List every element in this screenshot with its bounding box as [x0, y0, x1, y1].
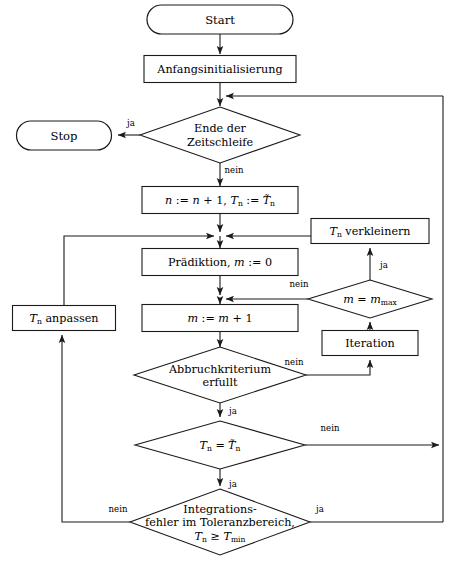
node-tn-eq-tn[interactable]: Tn = ˜Tn — [135, 421, 305, 469]
node-integration-error-label-line1: Integrations- — [183, 503, 257, 516]
node-start-label: Start — [205, 13, 235, 27]
node-reduce-tn-label: Tn verkleinern — [329, 225, 410, 239]
node-time-loop-end-label-line2: Zeitschleife — [187, 136, 254, 149]
node-m-increment[interactable]: m := m + 1 — [142, 305, 298, 332]
node-adapt-tn[interactable]: Tn anpassen — [13, 306, 116, 331]
edge-label-mmax-ja: ja — [379, 260, 388, 270]
edge-label-integ-nein: nein — [109, 504, 128, 514]
flowchart-svg: Start Stop Anfangsinitialisierung Ende d… — [0, 0, 451, 566]
node-stop[interactable]: Stop — [17, 121, 112, 150]
node-m-eq-mmax[interactable]: m = mmax — [308, 280, 432, 318]
edge-integ-nein-to-adapt-tn — [62, 335, 130, 522]
node-time-loop-end-label-line1: Ende der — [194, 122, 246, 135]
edge-label-mmax-nein: nein — [290, 279, 309, 289]
node-prediction[interactable]: Prädiktion, m := 0 — [142, 249, 298, 276]
edge-label-timeloop-ja: ja — [126, 118, 135, 128]
node-iteration[interactable]: Iteration — [322, 331, 418, 356]
node-iteration-label: Iteration — [345, 337, 395, 350]
node-tn-eq-tn-label: Tn = ˜Tn — [200, 438, 241, 453]
node-init-label: Anfangsinitialisierung — [156, 63, 282, 76]
node-abort-criterion-label-line2: erfullt — [203, 376, 238, 389]
edge-label-timeloop-nein: nein — [225, 165, 244, 175]
node-init[interactable]: Anfangsinitialisierung — [144, 56, 296, 83]
node-m-increment-label: m := m + 1 — [187, 312, 252, 325]
edge-label-tn-eq-ja: ja — [228, 479, 237, 489]
node-time-loop-end[interactable]: Ende der Zeitschleife — [140, 107, 300, 163]
node-increment-label: n := n + 1, Tn := ˜Tn — [165, 193, 275, 208]
node-integration-error-label-line2: fehler im Toleranzbereich, — [145, 516, 295, 529]
flowchart-canvas: Start Stop Anfangsinitialisierung Ende d… — [0, 0, 451, 566]
edge-label-integ-ja: ja — [315, 504, 324, 514]
edge-abort-nein-to-iteration — [306, 360, 370, 375]
node-layer: Start Stop Anfangsinitialisierung Ende d… — [13, 5, 433, 555]
node-integration-error[interactable]: Integrations- fehler im Toleranzbereich,… — [130, 489, 310, 555]
node-start[interactable]: Start — [147, 5, 293, 34]
node-prediction-label: Prädiktion, m := 0 — [168, 256, 272, 269]
node-reduce-tn[interactable]: Tn verkleinern — [311, 219, 429, 244]
edge-label-tn-eq-nein: nein — [321, 423, 340, 433]
node-abort-criterion[interactable]: Abbruchkriterium erfullt — [134, 347, 306, 403]
node-abort-criterion-label-line1: Abbruchkriterium — [168, 363, 271, 376]
edge-label-abort-ja: ja — [228, 406, 237, 416]
node-increment[interactable]: n := n + 1, Tn := ˜Tn — [142, 187, 298, 214]
node-stop-label: Stop — [50, 129, 77, 143]
edge-label-abort-nein: nein — [285, 357, 304, 367]
